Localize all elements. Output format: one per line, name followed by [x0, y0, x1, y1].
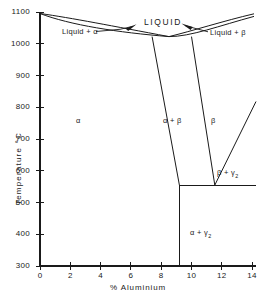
x-tick-label-6: 6 [122, 271, 140, 280]
y-tick-label-300: 300 [0, 261, 30, 270]
phase-label-liquid-alpha: Liquid + α [62, 27, 98, 36]
phase-label-alpha: α [76, 116, 81, 125]
phase-label-beta-gamma2: β + γ2 [217, 168, 238, 179]
y-tick-label-800: 800 [0, 102, 30, 111]
alpha-solvus-line [152, 37, 179, 186]
phase-label-beta-gamma2-sub: 2 [235, 173, 238, 179]
x-tick-label-14: 14 [243, 271, 261, 280]
y-axis-title: Temperature °C [14, 132, 23, 205]
phase-diagram-figure: 1100 1000 900 800 700 600 500 400 300 0 … [0, 0, 261, 296]
x-tick-label-4: 4 [92, 271, 110, 280]
phase-label-liquid-beta: Liquid + β [210, 28, 246, 37]
x-tick-label-0: 0 [31, 271, 49, 280]
phase-label-liquid: LIQUID [144, 17, 182, 27]
liquid-beta-arrowhead [182, 24, 193, 30]
y-tick-label-900: 900 [0, 71, 30, 80]
phase-label-beta: β [211, 116, 216, 125]
x-tick-label-12: 12 [213, 271, 231, 280]
y-tick-label-1000: 1000 [0, 39, 30, 48]
phase-label-beta-gamma2-main: β + γ [217, 168, 235, 177]
x-tick-label-10: 10 [182, 271, 200, 280]
y-tick-label-400: 400 [0, 229, 30, 238]
phase-label-alpha-gamma2-main: α + γ [190, 228, 208, 237]
x-tick-label-8: 8 [152, 271, 170, 280]
phase-diagram-plot [0, 0, 261, 296]
phase-label-alpha-gamma2-sub: 2 [208, 233, 211, 239]
beta-left-boundary-line [192, 37, 215, 186]
x-axis-title: % Aluminium [110, 283, 166, 292]
phase-label-alpha-beta: α + β [163, 116, 182, 125]
phase-label-alpha-gamma2: α + γ2 [190, 228, 211, 239]
x-tick-label-2: 2 [61, 271, 79, 280]
y-tick-label-1100: 1100 [0, 7, 30, 16]
